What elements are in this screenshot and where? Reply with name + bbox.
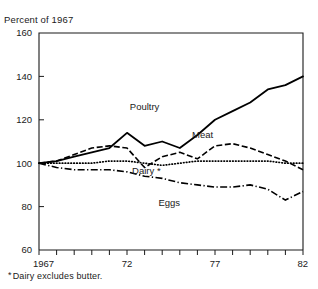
x-axis-tick-labels: 1967727782 [33, 258, 308, 269]
x-tick-label: 82 [297, 258, 308, 269]
plot-frame [39, 33, 303, 250]
data-series [39, 76, 303, 200]
footnote-marker: * [8, 270, 12, 280]
footnote: *Dairy excludes butter. [8, 270, 103, 281]
x-tick-label: 77 [210, 258, 221, 269]
x-tick-label: 72 [122, 258, 133, 269]
y-axis-unit-label: Percent of 1967 [4, 14, 73, 25]
footnote-text: Dairy excludes butter. [13, 271, 103, 281]
series-label-poultry: Poultry [130, 101, 160, 112]
line-chart-plot: 6080100120140160 1967727782 PoultryMeatD… [0, 0, 318, 289]
y-tick-label: 140 [16, 71, 32, 82]
series-label-meat: Meat [192, 129, 213, 140]
plot-border [39, 33, 303, 250]
series-line-eggs [39, 163, 303, 200]
series-label-dairy: Dairy * [132, 165, 161, 176]
y-tick-label: 60 [21, 244, 32, 255]
y-tick-label: 100 [16, 158, 32, 169]
chart-figure: Percent of 1967 6080100120140160 1967727… [0, 0, 318, 289]
series-line-dairy [39, 161, 303, 165]
y-tick-label: 80 [21, 201, 32, 212]
y-tick-label: 120 [16, 114, 32, 125]
series-label-eggs: Eggs [158, 197, 180, 208]
y-tick-label: 160 [16, 27, 32, 38]
x-tick-label: 1967 [33, 258, 54, 269]
y-axis-tick-labels: 6080100120140160 [16, 27, 32, 255]
series-line-poultry [39, 76, 303, 163]
axis-ticks [39, 76, 303, 255]
series-line-meat [39, 144, 303, 170]
